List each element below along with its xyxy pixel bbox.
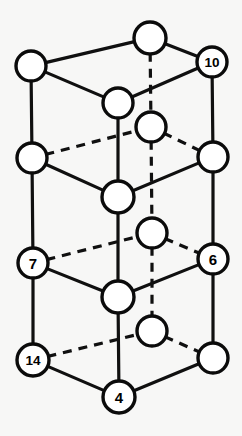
edge-lowerfront-4 bbox=[118, 312, 119, 382]
node-lower-interior[interactable] bbox=[137, 316, 167, 346]
edge-topback-10 bbox=[164, 43, 199, 57]
node-lower-interior-circle bbox=[137, 316, 167, 346]
node-7[interactable]: 7 bbox=[18, 248, 48, 278]
edge-topleft-topfront bbox=[44, 71, 106, 97]
edge-topfront-10 bbox=[131, 68, 200, 98]
node-lower-front-center[interactable] bbox=[102, 281, 134, 313]
node-mid-interior-circle bbox=[137, 218, 167, 248]
node-10[interactable]: 10 bbox=[197, 47, 227, 77]
node-mid-right-upper-circle bbox=[198, 142, 228, 172]
node-mid-right-upper[interactable] bbox=[198, 142, 228, 172]
edge-7-midinterior bbox=[46, 236, 138, 259]
node-bottom-right[interactable] bbox=[198, 343, 228, 373]
edge-lowerfront-6 bbox=[132, 264, 200, 291]
edge-7-lowerfront bbox=[46, 268, 104, 291]
node-14-label: 14 bbox=[25, 353, 41, 368]
node-mid-front-center-circle bbox=[102, 181, 134, 213]
node-7-label: 7 bbox=[29, 255, 37, 272]
node-10-label: 10 bbox=[204, 55, 219, 70]
node-mid-left-upper[interactable] bbox=[17, 143, 47, 173]
node-14[interactable]: 14 bbox=[17, 344, 49, 376]
node-top-left[interactable] bbox=[16, 51, 46, 81]
node-6[interactable]: 6 bbox=[198, 244, 228, 274]
edge-14-lowerinterior bbox=[47, 334, 138, 356]
edge-upperinterior-midinterior bbox=[151, 141, 152, 219]
node-6-label: 6 bbox=[209, 251, 217, 268]
node-4[interactable]: 4 bbox=[103, 381, 135, 413]
node-top-back[interactable] bbox=[134, 22, 166, 54]
nodes-layer: 1076144 bbox=[16, 22, 228, 413]
edge-4-bottomright bbox=[133, 363, 201, 391]
edge-upperinterior-midright bbox=[163, 133, 200, 151]
edge-midleft-upperinterior bbox=[45, 130, 137, 154]
node-mid-interior[interactable] bbox=[137, 218, 167, 248]
edge-10-midright bbox=[212, 76, 213, 143]
edge-midfront-midright bbox=[132, 162, 201, 191]
node-top-front-center[interactable] bbox=[103, 88, 133, 118]
node-mid-left-upper-circle bbox=[17, 143, 47, 173]
node-4-label: 4 bbox=[115, 389, 124, 406]
node-bottom-right-circle bbox=[198, 343, 228, 373]
node-upper-interior[interactable] bbox=[136, 112, 166, 142]
edge-topleft-topback bbox=[44, 41, 135, 62]
edge-midinterior-6 bbox=[165, 238, 201, 253]
edge-topback-upperinterior bbox=[150, 53, 151, 113]
node-top-back-circle bbox=[134, 22, 166, 54]
node-mid-front-center[interactable] bbox=[102, 181, 134, 213]
edge-topleft-midleft bbox=[31, 80, 32, 144]
node-upper-interior-circle bbox=[136, 112, 166, 142]
diagram-canvas: 1076144 bbox=[0, 0, 242, 436]
edge-midleft-7 bbox=[32, 172, 33, 249]
node-top-left-circle bbox=[16, 51, 46, 81]
node-lower-front-center-circle bbox=[102, 281, 134, 313]
edge-midleft-midfront bbox=[45, 164, 105, 191]
node-top-front-center-circle bbox=[103, 88, 133, 118]
edge-14-4 bbox=[47, 366, 106, 391]
lattice-diagram: 1076144 bbox=[0, 0, 242, 436]
edge-lowerinterior-bottomright bbox=[165, 337, 201, 353]
